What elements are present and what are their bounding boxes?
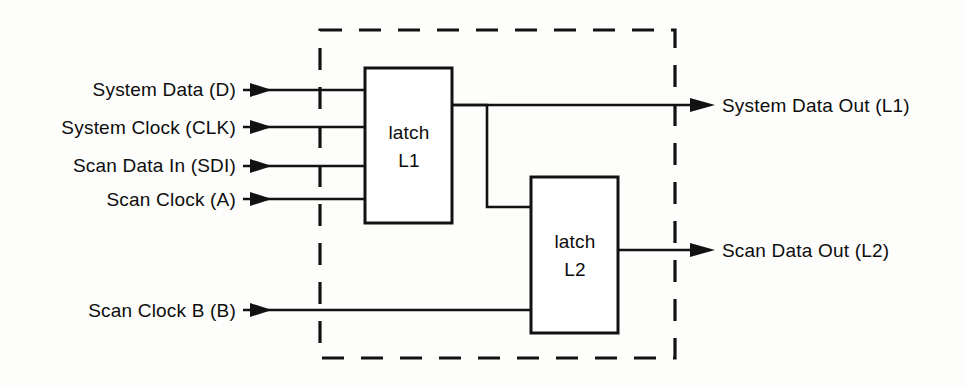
latch-box-l2 xyxy=(531,177,618,333)
arrowhead-system-clock-clk xyxy=(250,120,272,134)
input-label-scan-data-in-sdi: Scan Data In (SDI) xyxy=(73,155,236,176)
wire-scan-clock-a xyxy=(243,192,365,206)
latch-box-l1 xyxy=(365,68,452,223)
arrowhead-scan-clock-a xyxy=(250,192,272,206)
output-label-scan-data-out-l2: Scan Data Out (L2) xyxy=(722,240,889,261)
diagram-canvas: latch L1 latch L2 System Data (D) System… xyxy=(0,0,966,388)
wire-l1-to-l2-internal xyxy=(452,105,531,207)
wire-scan-data-out-l2 xyxy=(618,243,715,257)
wire-system-data-d xyxy=(243,83,365,97)
diagram-svg: latch L1 latch L2 System Data (D) System… xyxy=(0,0,966,388)
arrowhead-scan-clock-b xyxy=(250,303,272,317)
input-label-scan-clock-b: Scan Clock B (B) xyxy=(88,300,236,321)
input-label-system-clock-clk: System Clock (CLK) xyxy=(61,117,236,138)
wire-scan-data-in-sdi xyxy=(243,159,365,173)
latch-l2-label-line2: L2 xyxy=(564,259,586,280)
input-label-system-data-d: System Data (D) xyxy=(93,79,236,100)
input-label-scan-clock-a: Scan Clock (A) xyxy=(106,189,236,210)
arrowhead-scan-data-out-l2 xyxy=(690,243,715,257)
output-label-system-data-out-l1: System Data Out (L1) xyxy=(722,95,910,116)
arrowhead-scan-data-in-sdi xyxy=(250,159,272,173)
wire-scan-clock-b xyxy=(243,303,531,317)
latch-l2-label-line1: latch xyxy=(554,231,595,252)
latch-l1-label-line2: L1 xyxy=(398,150,420,171)
latch-l1-label-line1: latch xyxy=(388,122,429,143)
wire-system-clock-clk xyxy=(243,120,365,134)
arrowhead-system-data-out-l1 xyxy=(690,98,715,112)
arrowhead-system-data-d xyxy=(250,83,272,97)
